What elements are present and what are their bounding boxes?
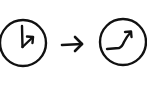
diagram-canvas bbox=[0, 0, 147, 85]
left-clock-icon bbox=[0, 20, 46, 66]
arrow-right-icon bbox=[62, 37, 82, 51]
right-clock-icon bbox=[100, 19, 146, 65]
right-clock-hand-curved bbox=[107, 32, 131, 49]
left-clock-hand-vertical bbox=[22, 26, 23, 47]
